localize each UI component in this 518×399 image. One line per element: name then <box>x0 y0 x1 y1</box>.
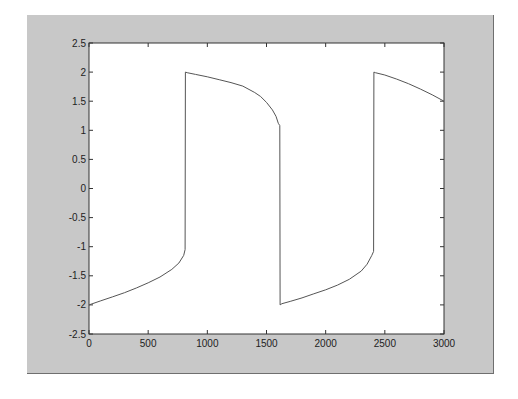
y-tick-label: -1 <box>77 241 86 252</box>
y-tick-label: -0.5 <box>69 212 87 223</box>
y-tick-label: 1 <box>80 125 86 136</box>
x-tick-label: 3000 <box>433 338 456 349</box>
y-tick-label: 0.5 <box>72 154 86 165</box>
x-tick-label: 1500 <box>255 338 278 349</box>
y-tick-label: -1.5 <box>69 270 87 281</box>
x-tick-label: 2500 <box>374 338 397 349</box>
y-tick-label: -2 <box>77 299 86 310</box>
y-tick-label: 2 <box>80 67 86 78</box>
y-tick-label: 2.5 <box>72 38 86 49</box>
chart-canvas: 2.521.510.50-0.5-1-1.5-2-2.5 05001000150… <box>0 0 518 399</box>
y-tick-label: 0 <box>80 183 86 194</box>
y-tick-label: -2.5 <box>69 329 87 340</box>
x-tick-label: 0 <box>86 338 92 349</box>
y-tick-label: 1.5 <box>72 96 86 107</box>
x-tick-label: 2000 <box>315 338 338 349</box>
axes-background <box>89 43 444 334</box>
x-tick-label: 1000 <box>196 338 219 349</box>
x-tick-label: 500 <box>140 338 157 349</box>
